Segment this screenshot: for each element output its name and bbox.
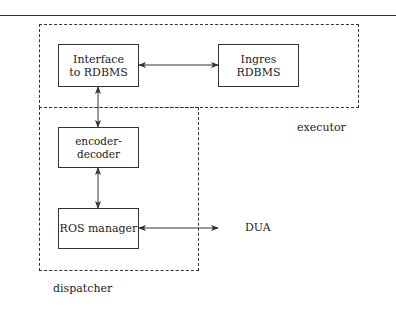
connector-arrows	[0, 0, 396, 312]
